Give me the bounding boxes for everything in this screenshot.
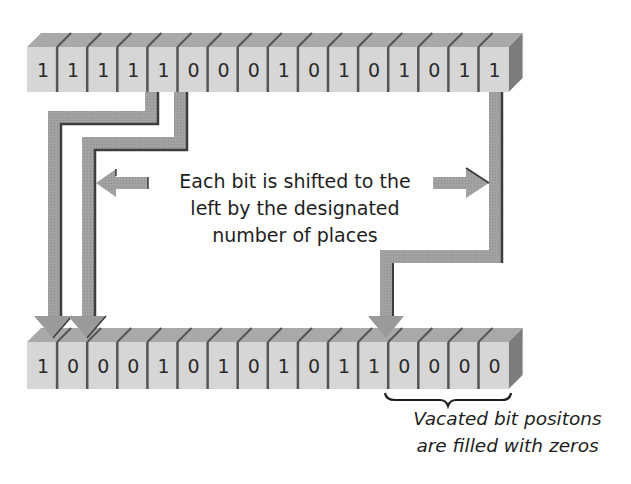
bit-value: 0 [188, 59, 200, 81]
bit-value: 0 [489, 355, 501, 377]
bit-value: 0 [428, 59, 440, 81]
bit-value: 1 [489, 59, 501, 81]
bit-value: 0 [97, 355, 109, 377]
bit-value: 1 [37, 59, 49, 81]
caption-line: Each bit is shifted to the [150, 168, 440, 195]
bit-value: 1 [67, 59, 79, 81]
bit-value: 1 [368, 355, 380, 377]
shift-explanation-caption: Each bit is shifted to the left by the d… [150, 168, 440, 249]
bit-cell: 1 [37, 59, 49, 81]
bit-value: 0 [67, 355, 79, 377]
bit-value: 1 [157, 355, 169, 377]
bit-value: 1 [218, 355, 230, 377]
bit-value: 1 [398, 59, 410, 81]
vacated-bits-caption: Vacated bit positons are filled with zer… [395, 405, 620, 459]
bit-value: 1 [127, 59, 139, 81]
bit-value: 0 [458, 355, 470, 377]
bit-value: 0 [398, 355, 410, 377]
bit-value: 1 [97, 59, 109, 81]
bit-value: 0 [127, 355, 139, 377]
bit-value: 0 [368, 59, 380, 81]
bit-value: 0 [248, 355, 260, 377]
bit-value: 1 [338, 59, 350, 81]
bit-value: 0 [428, 355, 440, 377]
bit-value: 1 [278, 59, 290, 81]
bit-value: 0 [308, 355, 320, 377]
bit-value: 0 [248, 59, 260, 81]
source-register: 1111100010101011 [27, 33, 523, 92]
bit-value: 1 [37, 355, 49, 377]
bit-value: 1 [458, 59, 470, 81]
bit-cell: 1 [37, 355, 49, 377]
result-register: 1000101010110000 [27, 328, 523, 389]
caption-line: left by the designated [150, 195, 440, 222]
bit-value: 1 [278, 355, 290, 377]
caption-line: Vacated bit positons [395, 405, 620, 432]
left-arrow-icon [96, 169, 148, 197]
bit-value: 1 [157, 59, 169, 81]
bit-value: 0 [218, 59, 230, 81]
caption-line: are filled with zeros [395, 432, 620, 459]
right-arrow-icon [433, 168, 489, 198]
bit-value: 0 [188, 355, 200, 377]
bit-value: 1 [338, 355, 350, 377]
caption-line: number of places [150, 222, 440, 249]
bit-value: 0 [308, 59, 320, 81]
